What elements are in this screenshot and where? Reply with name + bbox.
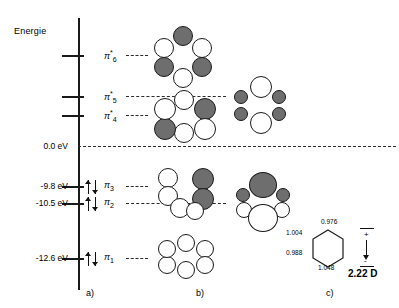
zero-energy-label: 0.0 eV [6, 141, 68, 151]
charge-lower-left: 0.988 [286, 249, 302, 256]
mo-label-pi3: π3 [104, 180, 114, 192]
level-tick-pi4-star [62, 115, 84, 117]
electron-pair-pi2 [84, 197, 100, 211]
mo-label-pi6-star: π*6 [104, 49, 117, 63]
leader-pi1 [126, 258, 148, 259]
orbital-picture-pi4-star [152, 90, 218, 146]
level-tick-pi6-star [62, 55, 84, 57]
mo-label-pi2: π2 [104, 197, 114, 209]
mo-label-pi5-star: π*5 [104, 90, 117, 104]
energy-label-pi3: -9.8 eV [6, 181, 68, 191]
energy-axis [78, 18, 80, 290]
level-tick-pi5-star [62, 96, 84, 98]
energy-label-pi2: -10.5 eV [6, 198, 68, 208]
leader-pi3 [126, 186, 148, 187]
orbital-picture-pi6-star [152, 26, 214, 88]
leader-pi6-star [126, 55, 148, 56]
electron-pair-pi3 [84, 180, 100, 194]
dipole-arrow-stem [366, 240, 367, 256]
panel-tag-c: c) [326, 288, 334, 298]
panel-tag-b: b) [196, 288, 204, 298]
electron-pair-pi1 [84, 252, 100, 266]
charge-bottom: 1.048 [318, 264, 334, 271]
charge-top: 0.976 [321, 218, 337, 225]
zero-energy-line [78, 146, 396, 147]
orbital-picture-pi1 [156, 234, 218, 280]
orbital-picture-pi5-star [232, 76, 290, 136]
panel-tag-a: a) [86, 288, 94, 298]
dipole-bottom-bar [360, 266, 374, 267]
charge-upper-left: 1.004 [286, 229, 302, 236]
mo-label-pi4-star: π*4 [104, 109, 117, 123]
orbital-picture-pi2 [234, 172, 292, 232]
leader-pi4-star [126, 115, 148, 116]
mo-label-pi1: π1 [104, 252, 114, 264]
molecular-orbital-diagram: Energie 0.0 eV -9.8 eV -10.5 eV -12.6 eV… [0, 0, 399, 308]
energy-label-pi1: -12.6 eV [6, 253, 68, 263]
dipole-negative-sign: - [364, 256, 367, 265]
dipole-top-bar [360, 228, 374, 229]
orbital-picture-pi3 [156, 168, 216, 224]
dipole-value-label: 2.22 D [348, 268, 377, 279]
dipole-positive-sign: + [364, 230, 369, 239]
energy-axis-title: Energie [14, 26, 46, 36]
